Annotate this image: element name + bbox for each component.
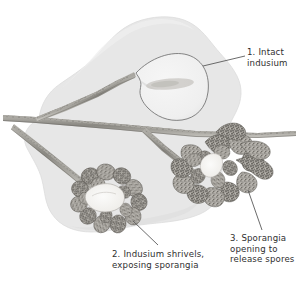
label-sporangia-opening: 3. Sporangia opening to release spores [230, 233, 294, 265]
leader-line-3 [248, 190, 262, 230]
label-intact-indusium: 1. Intact indusium [247, 47, 288, 68]
fern-sorus-diagram: 1. Intact indusium 2. Indusium shrivels,… [0, 0, 297, 287]
shriveled-indusium-opening [85, 184, 124, 212]
label-indusium-shrivels: 2. Indusium shrivels, exposing sporangia [112, 249, 204, 270]
